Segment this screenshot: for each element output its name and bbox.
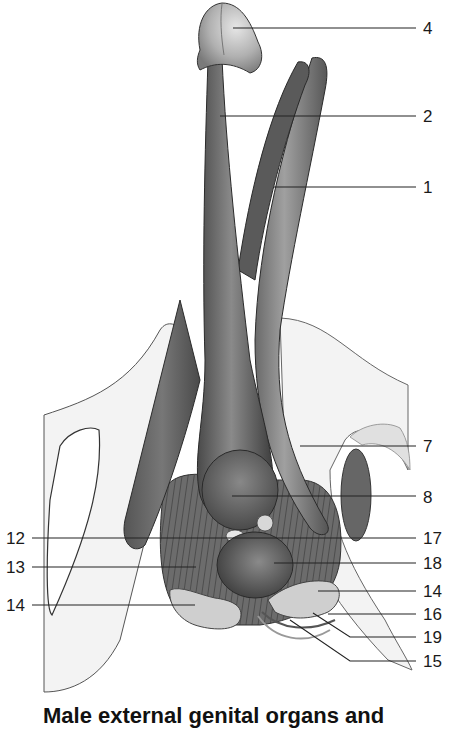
testis bbox=[217, 532, 293, 598]
glans bbox=[197, 3, 261, 73]
label-14-left: 14 bbox=[6, 597, 25, 614]
muscle-right bbox=[341, 449, 371, 541]
label-17: 17 bbox=[423, 530, 442, 547]
label-1: 1 bbox=[423, 179, 432, 196]
label-7: 7 bbox=[423, 438, 432, 455]
figure-caption: Male external genital organs and bbox=[43, 703, 384, 729]
label-15: 15 bbox=[423, 653, 442, 670]
label-2: 2 bbox=[423, 108, 432, 125]
label-19: 19 bbox=[423, 629, 442, 646]
label-16: 16 bbox=[423, 606, 442, 623]
label-18: 18 bbox=[423, 555, 442, 572]
label-12: 12 bbox=[6, 530, 25, 547]
label-4: 4 bbox=[423, 20, 432, 37]
label-13: 13 bbox=[6, 559, 25, 576]
bulbourethral-gland bbox=[257, 515, 273, 531]
label-8: 8 bbox=[423, 489, 432, 506]
label-14-right: 14 bbox=[423, 583, 442, 600]
